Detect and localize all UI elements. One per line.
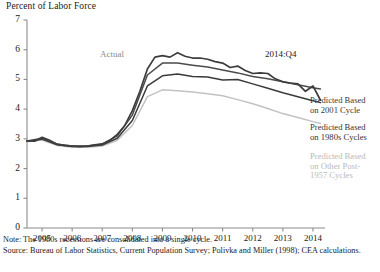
y-tick-label: 5: [4, 73, 20, 83]
legend-item: Predicted Basedon 1980s Cycles: [310, 123, 367, 142]
y-tick-label: 0: [4, 222, 20, 232]
y-tick-label: 3: [4, 133, 20, 143]
annotation-actual: Actual: [100, 49, 124, 59]
series-line: [27, 53, 320, 147]
series-line: [27, 63, 320, 146]
y-tick-label: 1: [4, 192, 20, 202]
figure-source: Source: Bureau of Labor Statistics, Curr…: [3, 246, 377, 256]
legend-item: Predicted Basedon 2001 Cycle: [310, 96, 366, 115]
legend-label-line: on 2001 Cycle: [310, 106, 366, 116]
legend-label-line: on 1980s Cycles: [310, 133, 367, 143]
legend-label-line: 1957 Cycles: [310, 171, 366, 181]
y-tick-label: 2: [4, 163, 20, 173]
figure-note: Note: The 1980s recessions are consolida…: [3, 235, 377, 245]
y-tick-label: 6: [4, 44, 20, 54]
legend-item: Predicted Basedon Other Post-1957 Cycles: [310, 152, 366, 181]
series-line: [27, 74, 320, 147]
y-axis-title: Percent of Labor Force: [6, 1, 96, 11]
chart-figure: Percent of Labor Force 01234567 20052006…: [0, 0, 380, 272]
series-line: [27, 90, 320, 147]
y-tick-label: 7: [4, 14, 20, 24]
annotation-date: 2014:Q4: [265, 49, 297, 59]
y-tick-label: 4: [4, 103, 20, 113]
